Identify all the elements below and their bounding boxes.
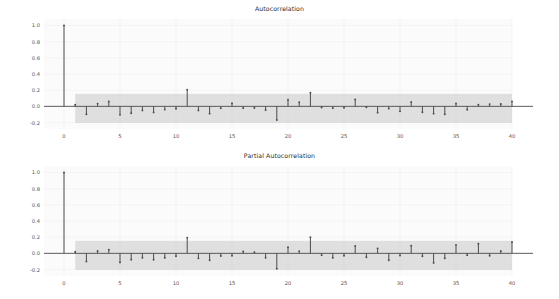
- y-tick-label: 0.6: [32, 55, 40, 61]
- y-tick-label: 0.2: [32, 87, 40, 93]
- stem-marker-lag-37: [477, 104, 479, 106]
- stem-marker-lag-40: [511, 241, 513, 243]
- stem-marker-lag-26: [354, 245, 356, 247]
- stem-marker-lag-15: [231, 102, 233, 104]
- chart-title-acf: Autocorrelation: [0, 5, 559, 13]
- stem-marker-lag-39: [500, 250, 502, 252]
- stem-marker-lag-39: [500, 103, 502, 105]
- stem-marker-lag-16: [242, 251, 244, 253]
- stem-marker-lag-1: [74, 104, 76, 106]
- stem-marker-lag-23: [321, 254, 323, 256]
- y-tick-label: 1.0: [32, 169, 40, 175]
- stem-marker-lag-7: [141, 257, 143, 259]
- panel-partial-autocorrelation: Partial Autocorrelation 1.00.80.60.40.20…: [0, 147, 559, 296]
- stem-marker-lag-34: [444, 113, 446, 115]
- x-tick-label: 20: [285, 280, 292, 286]
- stem-marker-lag-2: [85, 260, 87, 262]
- y-tick-label: 0.4: [32, 218, 40, 224]
- stem-marker-lag-18: [265, 257, 267, 259]
- x-tick-label: 30: [397, 280, 404, 286]
- y-tick-label: 0.6: [32, 202, 40, 208]
- stem-marker-lag-29: [388, 259, 390, 261]
- stem-marker-lag-30: [399, 110, 401, 112]
- stem-marker-lag-16: [242, 107, 244, 109]
- plot-area-pacf: 1.00.80.60.40.20.0-0.2: [44, 166, 539, 276]
- plot-area-acf: 1.00.80.60.40.20.0-0.2: [44, 19, 539, 129]
- confidence-interval-band: [75, 94, 512, 123]
- x-tick-label: 5: [118, 133, 121, 139]
- x-tick-label: 0: [62, 280, 65, 286]
- stem-marker-lag-22: [309, 236, 311, 238]
- stem-marker-lag-34: [444, 257, 446, 259]
- stem-marker-lag-38: [489, 103, 491, 105]
- stem-marker-lag-21: [298, 250, 300, 252]
- stem-marker-lag-19: [276, 268, 278, 270]
- stem-marker-lag-33: [433, 262, 435, 264]
- y-tick-label: 0.4: [32, 71, 40, 77]
- x-axis-ticks-acf: 0510152025303540: [44, 133, 539, 143]
- stem-marker-lag-0: [63, 172, 65, 174]
- stem-marker-lag-23: [321, 107, 323, 109]
- stem-marker-lag-5: [119, 261, 121, 263]
- stem-marker-lag-13: [209, 259, 211, 261]
- stem-marker-lag-38: [489, 255, 491, 257]
- stem-marker-lag-5: [119, 114, 121, 116]
- chart-title-pacf: Partial Autocorrelation: [0, 152, 559, 160]
- stem-marker-lag-14: [220, 255, 222, 257]
- stem-marker-lag-3: [97, 250, 99, 252]
- stem-marker-lag-36: [466, 109, 468, 111]
- x-tick-label: 20: [285, 133, 292, 139]
- x-tick-label: 0: [62, 133, 65, 139]
- x-tick-label: 10: [173, 133, 180, 139]
- stem-marker-lag-4: [108, 249, 110, 251]
- x-tick-label: 40: [509, 280, 516, 286]
- stem-marker-lag-7: [141, 109, 143, 111]
- stem-marker-lag-37: [477, 243, 479, 245]
- x-tick-label: 10: [173, 280, 180, 286]
- plot-svg-pacf: [44, 166, 539, 276]
- y-tick-label: -0.2: [30, 267, 40, 273]
- stem-marker-lag-15: [231, 255, 233, 257]
- stem-marker-lag-2: [85, 113, 87, 115]
- x-tick-label: 35: [453, 280, 460, 286]
- x-axis-ticks-pacf: 0510152025303540: [44, 280, 539, 290]
- y-tick-label: 0.8: [32, 186, 40, 192]
- stem-marker-lag-26: [354, 99, 356, 101]
- stem-marker-lag-21: [298, 101, 300, 103]
- stem-marker-lag-4: [108, 101, 110, 103]
- stem-marker-lag-8: [153, 259, 155, 261]
- confidence-interval-band: [75, 241, 512, 270]
- x-tick-label: 40: [509, 133, 516, 139]
- y-tick-label: 0.0: [32, 250, 40, 256]
- x-tick-label: 35: [453, 133, 460, 139]
- stem-marker-lag-27: [365, 106, 367, 108]
- stem-marker-lag-35: [455, 102, 457, 104]
- stem-marker-lag-28: [377, 247, 379, 249]
- stem-marker-lag-35: [455, 244, 457, 246]
- stem-marker-lag-13: [209, 113, 211, 115]
- stem-marker-lag-10: [175, 108, 177, 110]
- acf-pacf-figure: Autocorrelation 1.00.80.60.40.20.0-0.2 0…: [0, 0, 559, 299]
- x-tick-label: 15: [229, 133, 236, 139]
- stem-marker-lag-28: [377, 112, 379, 114]
- x-tick-label: 5: [118, 280, 121, 286]
- stem-marker-lag-20: [287, 246, 289, 248]
- stem-marker-lag-36: [466, 254, 468, 256]
- stem-marker-lag-12: [197, 257, 199, 259]
- y-tick-label: -0.2: [30, 120, 40, 126]
- y-tick-label: 1.0: [32, 22, 40, 28]
- stem-marker-lag-11: [186, 237, 188, 239]
- stem-marker-lag-18: [265, 109, 267, 111]
- stem-marker-lag-22: [309, 92, 311, 94]
- stem-marker-lag-0: [63, 25, 65, 27]
- stem-marker-lag-29: [388, 108, 390, 110]
- stem-marker-lag-32: [421, 255, 423, 257]
- stem-marker-lag-24: [332, 107, 334, 109]
- stem-marker-lag-17: [253, 107, 255, 109]
- stem-marker-lag-8: [153, 111, 155, 113]
- stem-marker-lag-20: [287, 99, 289, 101]
- stem-marker-lag-9: [164, 109, 166, 111]
- plot-svg-acf: [44, 19, 539, 129]
- stem-marker-lag-12: [197, 109, 199, 111]
- x-tick-label: 30: [397, 133, 404, 139]
